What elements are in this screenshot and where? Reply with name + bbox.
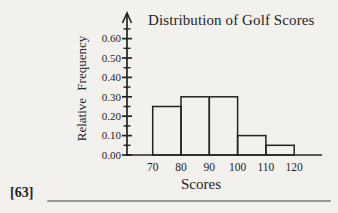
answer-underline (47, 200, 331, 202)
y-axis-tick-label: 0.30 (102, 91, 122, 103)
y-axis-tick-label: 0.60 (102, 32, 122, 44)
x-axis-title: Scores (151, 176, 251, 193)
x-axis-tick-label: 90 (204, 161, 216, 173)
histogram-bar (153, 107, 181, 156)
y-axis-tick-label: 0.40 (102, 71, 122, 83)
histogram-bar (238, 136, 266, 155)
y-axis-tick-label: 0.00 (102, 149, 122, 161)
x-axis-tick-label: 110 (257, 161, 274, 173)
x-axis-tick-label: 70 (147, 161, 159, 173)
y-axis-tick-label: 0.20 (102, 110, 122, 122)
histogram-bar (181, 97, 209, 155)
figure-number: [63] (10, 185, 33, 201)
y-axis-tick-label: 0.50 (102, 52, 122, 64)
x-axis-tick-label: 100 (229, 161, 247, 173)
y-axis-tick-label: 0.10 (102, 129, 122, 141)
page: Distribution of Golf Scores Relative Fre… (0, 0, 338, 213)
x-axis-tick-label: 120 (286, 161, 304, 173)
histogram-bar (209, 97, 237, 155)
histogram-bar (266, 145, 294, 155)
x-axis-tick-label: 80 (175, 161, 187, 173)
